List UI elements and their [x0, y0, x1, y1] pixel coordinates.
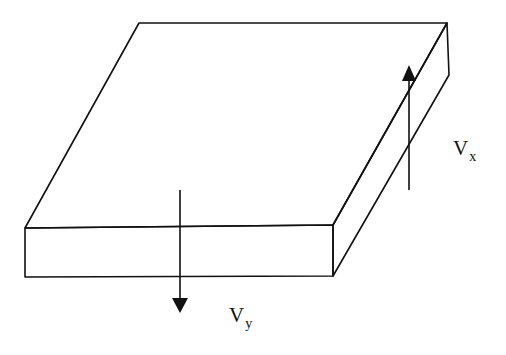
label-vx-main: V	[453, 136, 468, 160]
shear-vx-arrow-icon	[402, 65, 416, 190]
label-vy-main: V	[229, 303, 244, 327]
plate-side-face	[333, 23, 449, 276]
label-vy: Vy	[229, 303, 252, 328]
shear-vy-arrow-icon	[172, 190, 188, 313]
label-vx-sub: x	[469, 149, 476, 164]
plate-drawing	[0, 0, 506, 355]
plate-front-face	[25, 225, 333, 277]
label-vy-sub: y	[245, 316, 252, 331]
label-vx: Vx	[453, 136, 476, 161]
plate-top-face	[25, 23, 447, 228]
